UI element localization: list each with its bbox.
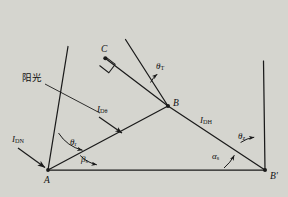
label-theta-r: θr [70,138,76,147]
label-theta-T-sub: T [160,64,164,71]
angle-arc-alpha-s [224,155,234,168]
vertex-dots [46,56,267,172]
label-alpha-s: αs [212,152,219,161]
vertex-dot-Bprime [263,168,267,172]
angle-arc-theta-T [151,74,158,82]
label-theta-T: θT [156,62,164,71]
arrow-IDtheta [99,117,122,133]
leader-line-sunlight [45,84,100,113]
label-IDN: IDN [12,135,24,144]
label-IDtheta: IDθ [97,105,107,114]
segment-A-B [48,106,168,170]
label-theta-z-sub: z [242,134,245,141]
diagram-vector-layer [0,0,288,197]
annotation-sunlight: 阳光 [22,73,42,83]
vertex-dot-B [166,104,170,108]
label-beta-s-sub: s [85,157,87,164]
label-IDH-sub: DH [203,118,212,125]
arrow-IDN-sun-ray [18,148,45,168]
label-beta-s: βs [81,155,88,164]
label-theta-r-sub: r [74,140,76,147]
segment-vertical-at-Bprime [264,61,266,170]
label-IDtheta-sub: Dθ [100,107,107,114]
vertex-dot-C [103,56,107,60]
vertex-dot-A [46,168,50,172]
label-alpha-s-sub: s [217,154,219,161]
label-IDN-sub: DN [15,137,24,144]
point-label-A: A [44,176,50,186]
segment-A-C-extended [48,47,68,171]
point-label-B: B [173,99,179,109]
figure-canvas: A B C B' IDN IDθ IDH θT θr βs αs θz 阳光 [0,0,288,197]
label-theta-z: θz [238,132,245,141]
point-label-Bprime: B' [270,172,278,182]
label-IDH: IDH [200,116,212,125]
point-label-C: C [101,45,107,55]
segment-B-upper-ray [126,40,169,107]
